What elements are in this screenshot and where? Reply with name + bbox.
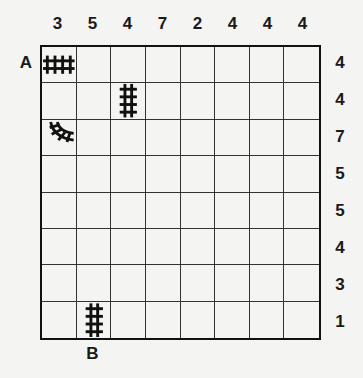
grid-cell[interactable] — [250, 156, 285, 192]
grid-cell[interactable] — [250, 265, 285, 301]
grid-cell[interactable] — [42, 156, 77, 192]
column-clue: 5 — [75, 14, 110, 34]
column-clue: 3 — [40, 14, 75, 34]
grid-cell[interactable] — [146, 120, 181, 156]
grid-cell[interactable] — [181, 193, 216, 229]
grid-cell[interactable] — [77, 156, 112, 192]
column-clue: 2 — [180, 14, 215, 34]
column-clue: 4 — [285, 14, 320, 34]
grid-cell[interactable] — [215, 229, 250, 265]
grid-cell[interactable] — [42, 265, 77, 301]
grid-cell[interactable] — [111, 47, 146, 83]
grid-cell[interactable] — [111, 156, 146, 192]
grid-cell[interactable] — [284, 265, 319, 301]
grid-cell[interactable] — [181, 83, 216, 119]
puzzle-grid — [40, 45, 321, 340]
grid-cell[interactable] — [284, 302, 319, 338]
grid-cell[interactable] — [181, 47, 216, 83]
row-clue: 5 — [330, 201, 350, 221]
grid-cell[interactable] — [181, 265, 216, 301]
start-label-a: A — [18, 53, 34, 73]
grid-cell[interactable] — [146, 83, 181, 119]
grid-cell[interactable] — [284, 47, 319, 83]
grid-cell[interactable] — [250, 120, 285, 156]
grid-cell[interactable] — [250, 193, 285, 229]
grid-cell[interactable] — [215, 302, 250, 338]
grid-cell[interactable] — [250, 229, 285, 265]
grid-cell[interactable] — [215, 47, 250, 83]
grid-cell[interactable] — [215, 265, 250, 301]
grid-cell[interactable] — [42, 302, 77, 338]
grid-cell[interactable] — [42, 229, 77, 265]
grid-cell[interactable] — [250, 47, 285, 83]
row-clue: 4 — [330, 90, 350, 110]
grid-cell[interactable] — [77, 47, 112, 83]
column-clue: 4 — [215, 14, 250, 34]
grid-cell[interactable] — [250, 83, 285, 119]
grid-cell[interactable] — [77, 193, 112, 229]
grid-cell[interactable] — [77, 265, 112, 301]
column-clue: 4 — [110, 14, 145, 34]
grid-cell[interactable] — [181, 156, 216, 192]
row-clue: 5 — [330, 164, 350, 184]
grid-cell[interactable] — [146, 229, 181, 265]
grid-cell[interactable] — [77, 83, 112, 119]
grid-cell[interactable] — [111, 193, 146, 229]
row-clue: 7 — [330, 127, 350, 147]
grid-cell[interactable] — [111, 265, 146, 301]
row-clue: 4 — [330, 53, 350, 73]
grid-cell[interactable] — [42, 47, 77, 83]
grid-cell[interactable] — [215, 83, 250, 119]
grid-cell[interactable] — [250, 302, 285, 338]
grid-cell[interactable] — [42, 193, 77, 229]
grid-cell[interactable] — [146, 265, 181, 301]
grid-cell[interactable] — [284, 83, 319, 119]
grid-cell[interactable] — [111, 83, 146, 119]
grid-cell[interactable] — [77, 302, 112, 338]
grid-cell[interactable] — [181, 120, 216, 156]
grid-cell[interactable] — [284, 120, 319, 156]
end-label-b: B — [75, 344, 110, 364]
grid-cell[interactable] — [181, 229, 216, 265]
column-clue: 4 — [250, 14, 285, 34]
row-clue: 3 — [330, 275, 350, 295]
grid-cell[interactable] — [77, 120, 112, 156]
grid-cell[interactable] — [146, 302, 181, 338]
grid-cell[interactable] — [111, 120, 146, 156]
grid-cell[interactable] — [215, 193, 250, 229]
grid-cell[interactable] — [181, 302, 216, 338]
grid-cell[interactable] — [146, 156, 181, 192]
grid-cell[interactable] — [284, 156, 319, 192]
row-clue: 4 — [330, 238, 350, 258]
column-clue: 7 — [145, 14, 180, 34]
grid-cell[interactable] — [42, 120, 77, 156]
grid-cell[interactable] — [284, 193, 319, 229]
grid-cell[interactable] — [111, 229, 146, 265]
grid-cell[interactable] — [111, 302, 146, 338]
row-clue: 1 — [330, 312, 350, 332]
grid-cell[interactable] — [77, 229, 112, 265]
grid-cell[interactable] — [42, 83, 77, 119]
grid-cell[interactable] — [284, 229, 319, 265]
grid-cell[interactable] — [215, 156, 250, 192]
grid-cell[interactable] — [215, 120, 250, 156]
grid-cell[interactable] — [146, 193, 181, 229]
grid-cell[interactable] — [146, 47, 181, 83]
